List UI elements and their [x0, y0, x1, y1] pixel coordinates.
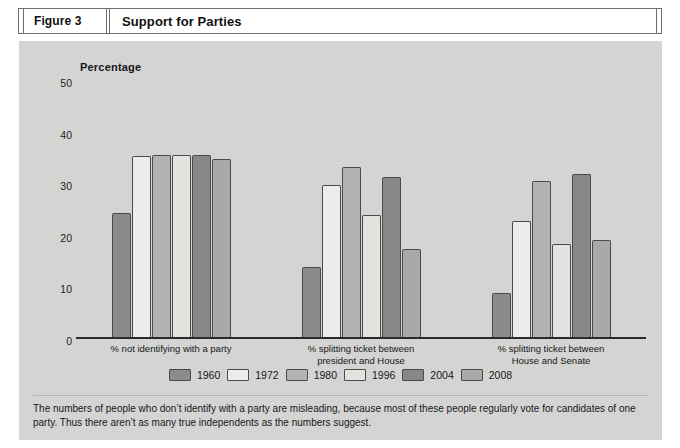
- chart-legend: 196019721980199620042008: [19, 369, 662, 381]
- x-axis-label-line: % splitting ticket between: [266, 343, 456, 355]
- bar-2004: [382, 177, 401, 337]
- chart-plot-area: Percentage 01020304050 % not identifying…: [52, 59, 646, 361]
- y-tick-label: 30: [52, 180, 72, 192]
- figure-number: Figure 3: [18, 9, 106, 33]
- legend-item-2004: 2004: [402, 369, 453, 381]
- x-axis-label-line: House and Senate: [456, 355, 646, 367]
- bar-1980: [152, 155, 171, 337]
- bar-groups: [76, 79, 646, 337]
- bar-group: [76, 79, 266, 337]
- bar-1960: [492, 293, 511, 337]
- legend-label: 2008: [489, 369, 512, 381]
- legend-item-1980: 1980: [286, 369, 337, 381]
- legend-item-2008: 2008: [461, 369, 512, 381]
- legend-item-1960: 1960: [169, 369, 220, 381]
- legend-swatch: [286, 369, 308, 381]
- figure-header: Figure 3 Support for Parties: [18, 8, 662, 34]
- figure-caption: The numbers of people who don’t identify…: [33, 395, 648, 430]
- bar-1960: [112, 213, 131, 337]
- y-tick-label: 40: [52, 129, 72, 141]
- bar-2008: [592, 240, 611, 337]
- bar-1980: [342, 167, 361, 337]
- x-axis-label-line: president and House: [266, 355, 456, 367]
- legend-swatch: [227, 369, 249, 381]
- bar-2004: [192, 155, 211, 337]
- legend-label: 2004: [430, 369, 453, 381]
- bar-1996: [362, 215, 381, 337]
- figure-panel: Percentage 01020304050 % not identifying…: [19, 41, 662, 440]
- bar-1996: [552, 244, 571, 337]
- y-tick-label: 0: [52, 335, 72, 347]
- figure-page: Figure 3 Support for Parties Percentage …: [0, 0, 680, 448]
- bar-1960: [302, 267, 321, 337]
- bar-1980: [532, 181, 551, 337]
- bar-group: [456, 79, 646, 337]
- x-axis-group-label: % splitting ticket betweenpresident and …: [266, 343, 456, 367]
- figure-title: Support for Parties: [110, 9, 242, 33]
- legend-item-1972: 1972: [227, 369, 278, 381]
- legend-item-1996: 1996: [344, 369, 395, 381]
- bar-2008: [402, 249, 421, 337]
- y-tick-label: 50: [52, 77, 72, 89]
- legend-swatch: [169, 369, 191, 381]
- legend-swatch: [461, 369, 483, 381]
- legend-label: 1972: [255, 369, 278, 381]
- x-axis-group-label: % splitting ticket betweenHouse and Sena…: [456, 343, 646, 367]
- legend-swatch: [402, 369, 424, 381]
- bar-2008: [212, 159, 231, 337]
- legend-label: 1960: [197, 369, 220, 381]
- x-axis-label-line: % splitting ticket between: [456, 343, 646, 355]
- legend-swatch: [344, 369, 366, 381]
- x-axis-group-label: % not identifying with a party: [76, 343, 266, 367]
- bar-2004: [572, 174, 591, 337]
- y-axis-title: Percentage: [80, 61, 141, 73]
- y-tick-label: 20: [52, 232, 72, 244]
- y-tick-label: 10: [52, 283, 72, 295]
- x-axis-line: [76, 337, 646, 339]
- bar-1972: [322, 185, 341, 337]
- x-axis-label-line: % not identifying with a party: [76, 343, 266, 355]
- bar-1972: [132, 156, 151, 337]
- x-axis-labels: % not identifying with a party% splittin…: [76, 343, 646, 367]
- legend-label: 1980: [314, 369, 337, 381]
- bar-group: [266, 79, 456, 337]
- bar-1972: [512, 221, 531, 337]
- legend-label: 1996: [372, 369, 395, 381]
- bar-1996: [172, 155, 191, 337]
